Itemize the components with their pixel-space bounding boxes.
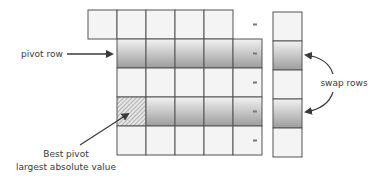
matrix-cell bbox=[204, 68, 233, 97]
matrix-cell bbox=[233, 126, 262, 155]
matrix-cell bbox=[117, 10, 146, 39]
matrix-cell bbox=[233, 97, 262, 126]
matrix-cell bbox=[204, 39, 233, 68]
matrix-cell bbox=[175, 126, 204, 155]
matrix-cell bbox=[233, 68, 262, 97]
matrix-cell bbox=[146, 39, 175, 68]
equals-sign bbox=[253, 111, 257, 113]
matrix-cell bbox=[146, 97, 175, 126]
vector-cell bbox=[273, 41, 302, 70]
matrix-cell bbox=[175, 39, 204, 68]
matrix-cell bbox=[146, 68, 175, 97]
matrix-cell bbox=[117, 126, 146, 155]
matrix-cell bbox=[117, 39, 146, 68]
equals-sign bbox=[253, 140, 257, 142]
pivot-diagram: pivot row Best pivot largest absolute va… bbox=[0, 0, 387, 179]
matrix-cell bbox=[175, 68, 204, 97]
vector-cell bbox=[273, 128, 302, 157]
matrix-cell bbox=[233, 39, 262, 68]
swap-arrow-up-icon bbox=[306, 55, 333, 74]
best-pivot-label: Best pivot bbox=[43, 149, 89, 159]
equals-sign bbox=[253, 82, 257, 84]
vector-cell bbox=[273, 70, 302, 99]
matrix-cell bbox=[175, 97, 204, 126]
matrix-cell bbox=[175, 10, 204, 39]
pivot-row-label: pivot row bbox=[21, 49, 63, 59]
matrix-cell bbox=[146, 10, 175, 39]
best-pivot-sublabel: largest absolute value bbox=[16, 162, 116, 172]
vector-cell bbox=[273, 99, 302, 128]
matrix-cell bbox=[88, 10, 117, 39]
matrix-cell bbox=[204, 10, 233, 39]
vector-cell bbox=[273, 12, 302, 41]
swap-rows-label: swap rows bbox=[320, 78, 368, 88]
best-pivot-cell bbox=[117, 97, 146, 126]
swap-arrow-down-icon bbox=[306, 92, 333, 112]
matrix-cell bbox=[204, 97, 233, 126]
rhs-vector bbox=[273, 12, 302, 157]
matrix-cell bbox=[117, 68, 146, 97]
matrix-grid bbox=[88, 10, 262, 155]
matrix-cell bbox=[204, 126, 233, 155]
matrix-cell bbox=[146, 126, 175, 155]
equals-sign bbox=[253, 53, 257, 55]
equals-sign bbox=[253, 24, 257, 26]
